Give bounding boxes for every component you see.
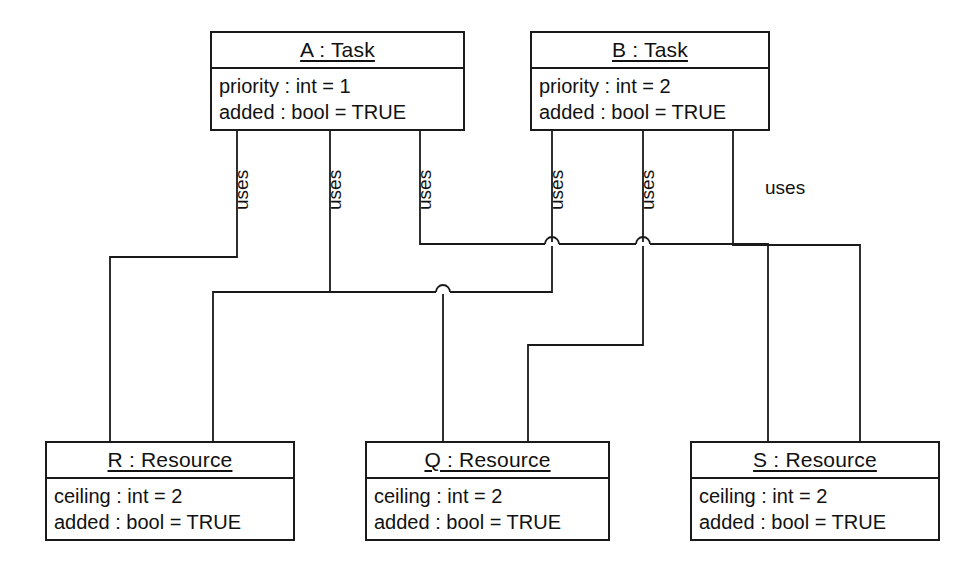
object-box-S[interactable]: S : Resource ceiling : int = 2 added : b… bbox=[690, 441, 940, 541]
object-attribute: priority : int = 2 bbox=[539, 73, 762, 99]
object-attributes: ceiling : int = 2 added : bool = TRUE bbox=[47, 479, 293, 539]
object-box-header: Q : Resource bbox=[367, 443, 608, 479]
object-box-header: S : Resource bbox=[692, 443, 938, 479]
link-label-uses: uses bbox=[765, 177, 805, 199]
connector-link-a-s[interactable] bbox=[420, 131, 768, 441]
object-attributes: priority : int = 2 added : bool = TRUE bbox=[532, 69, 768, 129]
object-attribute: added : bool = TRUE bbox=[374, 509, 602, 535]
object-title: R : Resource bbox=[108, 448, 233, 472]
object-box-A[interactable]: A : Task priority : int = 1 added : bool… bbox=[210, 31, 465, 131]
object-attribute: ceiling : int = 2 bbox=[54, 483, 287, 509]
link-label-uses: uses bbox=[546, 170, 568, 210]
object-attribute: added : bool = TRUE bbox=[699, 509, 932, 535]
link-label-uses: uses bbox=[414, 170, 436, 210]
object-box-R[interactable]: R : Resource ceiling : int = 2 added : b… bbox=[45, 441, 295, 541]
object-box-B[interactable]: B : Task priority : int = 2 added : bool… bbox=[530, 31, 770, 131]
object-title: Q : Resource bbox=[424, 448, 550, 472]
uml-object-diagram: A : Task priority : int = 1 added : bool… bbox=[0, 0, 965, 583]
object-attribute: added : bool = TRUE bbox=[54, 509, 287, 535]
object-title: A : Task bbox=[300, 38, 375, 62]
connector-link-b-r[interactable] bbox=[213, 131, 552, 441]
link-label-uses: uses bbox=[324, 170, 346, 210]
object-box-Q[interactable]: Q : Resource ceiling : int = 2 added : b… bbox=[365, 441, 610, 541]
object-attribute: added : bool = TRUE bbox=[539, 99, 762, 125]
object-title: B : Task bbox=[612, 38, 688, 62]
object-box-header: B : Task bbox=[532, 33, 768, 69]
object-box-header: R : Resource bbox=[47, 443, 293, 479]
object-attribute: ceiling : int = 2 bbox=[374, 483, 602, 509]
link-label-uses: uses bbox=[637, 170, 659, 210]
link-label-uses: uses bbox=[231, 170, 253, 210]
object-attributes: ceiling : int = 2 added : bool = TRUE bbox=[692, 479, 938, 539]
object-attribute: added : bool = TRUE bbox=[219, 99, 457, 125]
object-attributes: ceiling : int = 2 added : bool = TRUE bbox=[367, 479, 608, 539]
connector-link-a-r[interactable] bbox=[110, 131, 237, 441]
object-attribute: ceiling : int = 2 bbox=[699, 483, 932, 509]
object-attribute: priority : int = 1 bbox=[219, 73, 457, 99]
object-box-header: A : Task bbox=[212, 33, 463, 69]
object-title: S : Resource bbox=[753, 448, 877, 472]
object-attributes: priority : int = 1 added : bool = TRUE bbox=[212, 69, 463, 129]
